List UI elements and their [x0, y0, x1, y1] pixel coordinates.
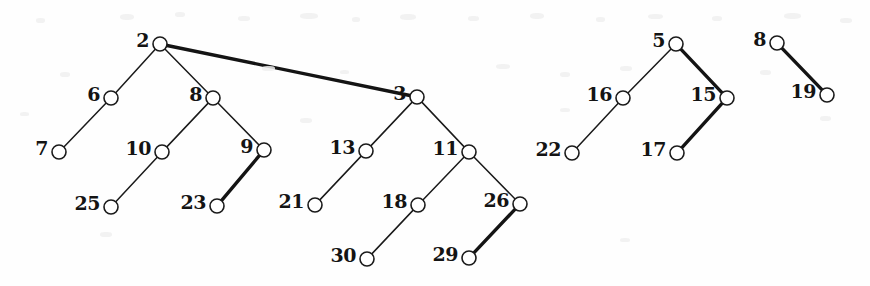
node-label-9: 9	[240, 137, 253, 156]
tree-node-13	[359, 144, 373, 158]
tree-edge	[576, 102, 619, 148]
tree-node-3	[410, 90, 424, 104]
tree-edge	[627, 48, 672, 93]
tree-node-19	[820, 88, 834, 102]
scan-speck	[352, 17, 360, 22]
node-label-8: 8	[753, 30, 766, 49]
tree-edge	[115, 156, 158, 202]
scan-speck	[820, 116, 831, 121]
tree-node-8	[770, 36, 784, 50]
node-label-15: 15	[691, 85, 716, 104]
tree-edge	[319, 155, 362, 200]
node-label-2: 2	[136, 31, 149, 50]
scan-speck	[760, 70, 771, 75]
node-label-30: 30	[331, 246, 356, 265]
scan-speck	[620, 66, 632, 71]
tree-edge	[371, 209, 414, 254]
scan-speck	[560, 72, 570, 77]
scan-speck	[784, 13, 801, 19]
tree-edge	[422, 156, 465, 200]
scan-speck	[120, 14, 134, 20]
tree-node-2	[153, 37, 167, 51]
node-label-8: 8	[189, 85, 202, 104]
node-label-26: 26	[484, 191, 509, 210]
scan-speck	[100, 232, 112, 237]
tree-node-21	[308, 198, 322, 212]
tree-node-6	[104, 91, 118, 105]
tree-node-29	[462, 251, 476, 265]
node-label-25: 25	[75, 194, 100, 213]
tree-edge	[681, 102, 723, 148]
tree-node-16	[616, 91, 630, 105]
node-label-5: 5	[652, 31, 665, 50]
scan-speck	[340, 70, 349, 74]
tree-edge	[166, 102, 209, 147]
scan-speck	[840, 18, 852, 23]
scan-speck	[496, 64, 510, 69]
tree-node-25	[104, 200, 118, 214]
tree-edge	[115, 48, 156, 93]
node-label-10: 10	[126, 139, 151, 158]
node-label-22: 22	[536, 140, 561, 159]
scan-speck	[300, 13, 318, 19]
tree-node-23	[210, 199, 224, 213]
scan-speck	[648, 14, 663, 19]
scan-speck	[60, 72, 70, 77]
tree-node-18	[411, 198, 425, 212]
scan-speck	[175, 12, 185, 17]
tree-node-5	[669, 37, 683, 51]
scan-speck	[36, 18, 45, 23]
scan-speck	[712, 16, 722, 21]
node-label-23: 23	[181, 193, 206, 212]
scan-speck	[262, 66, 275, 71]
tree-node-15	[720, 91, 734, 105]
node-label-18: 18	[382, 192, 407, 211]
scan-speck	[596, 17, 605, 22]
node-label-13: 13	[330, 138, 355, 157]
scan-speck	[20, 112, 29, 116]
tree-edge	[473, 208, 516, 253]
node-label-16: 16	[587, 85, 612, 104]
tree-node-30	[360, 252, 374, 266]
tree-node-17	[670, 146, 684, 160]
node-label-19: 19	[791, 82, 816, 101]
tree-node-11	[462, 145, 476, 159]
node-label-11: 11	[433, 139, 458, 158]
scan-speck	[468, 16, 479, 21]
scan-speck	[620, 238, 630, 242]
tree-edge	[63, 102, 107, 147]
node-label-17: 17	[641, 140, 666, 159]
tree-node-8	[206, 91, 220, 105]
scan-speck	[560, 108, 570, 112]
tree-forest-figure: 26871092523313112118263029516152217819	[0, 0, 870, 286]
node-label-21: 21	[279, 192, 304, 211]
node-label-7: 7	[35, 139, 48, 158]
tree-node-7	[52, 145, 66, 159]
node-label-29: 29	[433, 245, 458, 264]
tree-edge	[221, 155, 260, 202]
tree-node-10	[155, 145, 169, 159]
node-label-3: 3	[393, 84, 406, 103]
scan-speck	[300, 118, 312, 123]
scan-speck	[400, 14, 416, 20]
scan-speck	[238, 16, 250, 21]
tree-edge	[370, 101, 413, 146]
tree-node-22	[565, 146, 579, 160]
tree-node-26	[513, 197, 527, 211]
tree-node-9	[257, 143, 271, 157]
tree-edge	[217, 102, 260, 145]
scan-speck	[530, 13, 544, 19]
node-label-6: 6	[87, 85, 100, 104]
